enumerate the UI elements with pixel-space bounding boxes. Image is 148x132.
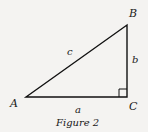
- right-triangle-diagram: B b c A a C Figure 2: [0, 0, 148, 132]
- vertex-label-a: A: [9, 97, 18, 110]
- side-label-b: b: [132, 54, 138, 65]
- figure-caption: Figure 2: [55, 117, 99, 128]
- side-label-a: a: [75, 104, 81, 115]
- right-angle-marker: [119, 89, 127, 97]
- vertex-label-b: B: [128, 7, 137, 20]
- side-label-c: c: [67, 46, 73, 57]
- vertex-label-c: C: [129, 100, 138, 113]
- triangle-abc: [26, 25, 127, 97]
